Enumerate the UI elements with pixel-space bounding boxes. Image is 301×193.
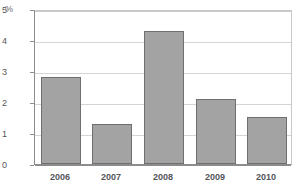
x-tick-label: 2006 bbox=[40, 172, 80, 182]
bar bbox=[247, 117, 287, 164]
bar bbox=[92, 124, 132, 164]
x-tick-label: 2009 bbox=[195, 172, 235, 182]
y-tick-label: 3 bbox=[0, 68, 7, 77]
y-tick-label: 0 bbox=[0, 161, 7, 170]
x-tick-label: 2008 bbox=[143, 172, 183, 182]
y-tick-label: 5 bbox=[0, 6, 7, 15]
bar-chart: % 012345 20062007200820092010 bbox=[0, 0, 301, 193]
y-tick-label: 1 bbox=[0, 130, 7, 139]
bar bbox=[196, 99, 236, 164]
x-tick-label: 2007 bbox=[91, 172, 131, 182]
x-tick-label: 2010 bbox=[246, 172, 286, 182]
bar bbox=[144, 31, 184, 164]
gridline bbox=[35, 165, 291, 166]
y-tick-label: 4 bbox=[0, 37, 7, 46]
bar bbox=[41, 77, 81, 164]
y-tick-label: 2 bbox=[0, 99, 7, 108]
plot-area bbox=[34, 10, 292, 165]
bars-group bbox=[35, 11, 291, 164]
y-tick-mark bbox=[30, 165, 34, 166]
